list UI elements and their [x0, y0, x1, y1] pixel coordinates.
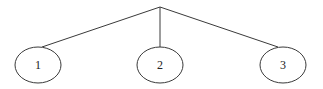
- tree-node-2: 2: [137, 47, 183, 83]
- tree-diagram: 1 2 3: [0, 0, 323, 89]
- node-label: 2: [157, 58, 163, 72]
- edge-root-to-node-1: [42, 7, 160, 47]
- edge-root-to-node-3: [160, 7, 278, 47]
- tree-node-1: 1: [15, 47, 61, 83]
- tree-node-3: 3: [260, 47, 306, 83]
- node-label: 1: [35, 58, 41, 72]
- edges: [42, 7, 278, 47]
- node-label: 3: [280, 58, 286, 72]
